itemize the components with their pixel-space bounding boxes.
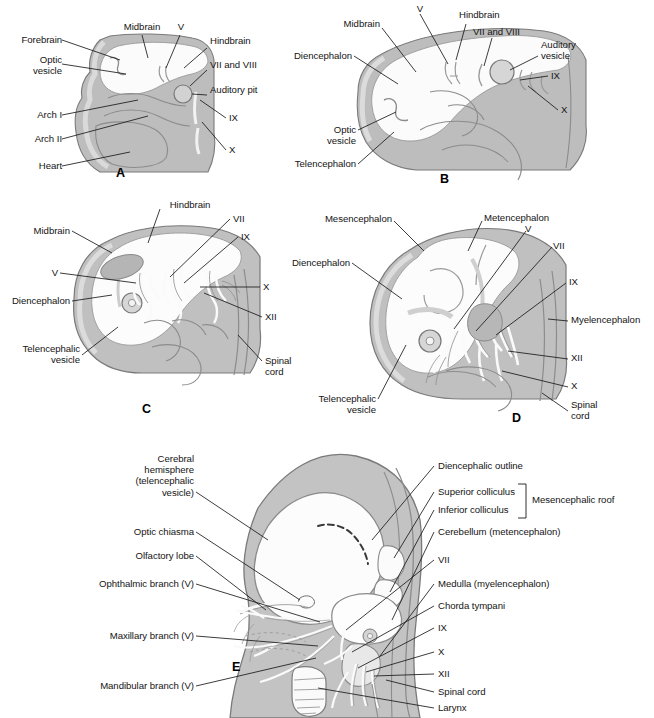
auditory-vesicle-b [490, 60, 514, 84]
label-mesencephalic-roof: Mesencephalic roof [532, 494, 614, 505]
label-x-a: X [229, 144, 235, 155]
label-forebrain: Forebrain [21, 34, 62, 45]
label-midbrain-a: Midbrain [124, 21, 160, 32]
label-midbrain-b: Midbrain [344, 18, 380, 29]
label-arch-i: Arch I [37, 109, 62, 120]
lens-d [426, 337, 434, 345]
panel-e: Cerebral hemisphere (telencephalic vesic… [0, 440, 654, 718]
label-v-d: V [525, 223, 531, 234]
label-chorda-tympani: Chorda tympani [438, 600, 505, 611]
label-metencephalon-d: Metencephalon [484, 212, 549, 223]
label-diencephalon-d: Diencephalon [292, 257, 350, 268]
label-spinal-cord-d: Spinal cord [571, 399, 597, 421]
label-xii-c: XII [265, 311, 277, 322]
label-medulla: Medulla (myelencephalon) [438, 578, 549, 589]
label-xii-d: XII [571, 352, 583, 363]
medulla-block-d [468, 304, 503, 341]
label-vii-viii-a: VII and VIII [210, 59, 257, 70]
label-auditory-pit: Auditory pit [210, 84, 257, 95]
label-cerebellum: Cerebellum (metencephalon) [438, 526, 560, 537]
label-diencephalon-c: Diencephalon [12, 295, 70, 306]
label-inferior-colliculus: Inferior colliculus [438, 504, 509, 515]
label-olfactory-lobe: Olfactory lobe [136, 550, 195, 561]
larynx-e [292, 667, 326, 717]
label-telencephalic-c: Telencephalic vesicle [23, 343, 80, 365]
label-larynx: Larynx [438, 702, 467, 713]
label-myelencephalon-d: Myelencephalon [571, 314, 640, 325]
label-ix-a: IX [229, 112, 238, 123]
label-xii-e: XII [438, 668, 450, 679]
label-optic-vesicle-a: Optic vesicle [33, 54, 62, 76]
label-telencephalon-b: Telencephalon [295, 158, 356, 169]
label-ix-e: IX [438, 622, 447, 633]
label-midbrain-c: Midbrain [34, 225, 70, 236]
label-ophthalmic-branch: Ophthalmic branch (V) [99, 578, 194, 589]
label-diencephalic-outline: Diencephalic outline [438, 460, 523, 471]
label-ix-d: IX [569, 276, 578, 287]
label-vii-viii-b: VII and VIII [473, 26, 520, 37]
nerve-ix-a [195, 92, 197, 124]
label-spinal-cord-c: Spinal cord [265, 355, 291, 377]
panel-a: Forebrain Optic vesicle Arch I Arch II H… [0, 0, 270, 190]
panel-b: Midbrain Diencephalon Optic vesicle Tele… [270, 0, 654, 190]
label-ix-c: IX [241, 231, 250, 242]
label-arch-ii: Arch II [35, 133, 62, 144]
label-v-b: V [417, 3, 423, 14]
panel-letter-b: B [440, 172, 449, 186]
label-superior-colliculus: Superior colliculus [438, 486, 515, 497]
label-spinal-cord-e: Spinal cord [438, 686, 485, 697]
label-vii-c: VII [233, 213, 245, 224]
panel-letter-e: E [232, 660, 240, 674]
label-hindbrain-a: Hindbrain [210, 35, 251, 46]
label-x-e: X [438, 646, 444, 657]
mesencephalic-roof-bracket [518, 484, 526, 518]
label-v-c: V [52, 267, 58, 278]
label-optic-vesicle-b: Optic vesicle [327, 124, 356, 146]
lens-c [128, 299, 135, 306]
label-vii-e: VII [438, 554, 450, 565]
label-hindbrain-b: Hindbrain [459, 9, 500, 20]
label-vii-d: VII [553, 240, 565, 251]
panel-letter-c: C [142, 402, 151, 416]
label-heart: Heart [39, 160, 62, 171]
label-x-c: X [263, 281, 269, 292]
label-cerebral-hemisphere: Cerebral hemisphere (telencephalic vesic… [136, 453, 195, 498]
label-mesencephalon-d: Mesencephalon [325, 213, 392, 224]
panel-d: Mesencephalon Diencephalon Telencephalic… [290, 195, 654, 435]
label-mandibular-branch: Mandibular branch (V) [100, 680, 194, 691]
label-ix-b: IX [551, 70, 560, 81]
label-diencephalon-b: Diencephalon [294, 50, 352, 61]
panel-letter-a: A [116, 166, 125, 180]
leader-mesencephalon-d [394, 221, 424, 251]
label-x-b: X [561, 104, 567, 115]
label-auditory-vesicle: Auditory vesicle [541, 39, 576, 61]
panel-c: Midbrain V Diencephalon Telencephalic ve… [0, 195, 300, 435]
label-telencephalic-d: Telencephalic vesicle [319, 393, 376, 415]
label-hindbrain-c: Hindbrain [170, 199, 211, 210]
inner-ear-core-e [367, 633, 372, 638]
label-maxillary-branch: Maxillary branch (V) [110, 630, 194, 641]
auditory-pit-a [174, 85, 192, 103]
label-x-d: X [571, 380, 577, 391]
label-optic-chiasma: Optic chiasma [134, 526, 194, 537]
figure-root: Forebrain Optic vesicle Arch I Arch II H… [0, 0, 654, 718]
panel-letter-d: D [512, 411, 521, 425]
label-v-a: V [178, 21, 184, 32]
